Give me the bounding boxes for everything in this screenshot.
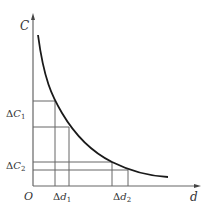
x-tick-delta-d2: Δd2	[113, 191, 131, 204]
y-axis-arrow-icon	[31, 13, 35, 20]
diagram-canvas: C d O ΔC1 ΔC2 Δd1 Δd2	[0, 0, 212, 211]
cost-curve	[38, 35, 168, 177]
x-axis-arrow-icon	[194, 184, 201, 188]
y-tick-delta-c2: ΔC2	[6, 160, 25, 173]
origin-label: O	[24, 190, 33, 203]
diagram-svg: C d O ΔC1 ΔC2 Δd1 Δd2	[0, 0, 212, 211]
y-axis-label: C	[20, 19, 29, 33]
y-tick-delta-c1: ΔC1	[6, 108, 25, 121]
x-axis-label: d	[190, 190, 198, 204]
x-tick-delta-d1: Δd1	[53, 191, 71, 204]
